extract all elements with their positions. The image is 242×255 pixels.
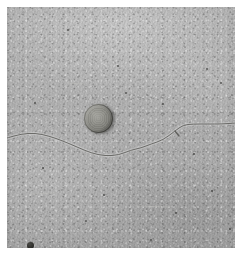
photograph-frame: Close-up photograph of a light gray conc… [0, 0, 242, 255]
surface-speck [150, 239, 152, 241]
surface-speck [175, 212, 177, 214]
surface-speck [67, 29, 69, 31]
surface-speck [125, 92, 127, 94]
photograph-canvas [7, 7, 235, 248]
crack-highlight-halo [7, 123, 235, 156]
surface-speck [103, 194, 105, 196]
surface-speck [42, 167, 44, 169]
surface-speck [229, 228, 231, 230]
surface-speck [117, 65, 119, 67]
surface-speck [34, 102, 36, 104]
crack-group [7, 123, 235, 156]
surface-speck [85, 220, 87, 222]
surface-speck [220, 82, 222, 84]
reference-coin [84, 104, 113, 133]
crack-branch-node [175, 131, 179, 136]
coin-rim [84, 104, 113, 133]
surface-speck [211, 190, 213, 192]
dark-pebble [27, 242, 34, 248]
surface-speck [193, 153, 195, 155]
surface-speck [206, 68, 208, 70]
crack-overlay [7, 7, 235, 248]
crack-line [7, 123, 235, 156]
surface-speck [162, 103, 164, 105]
